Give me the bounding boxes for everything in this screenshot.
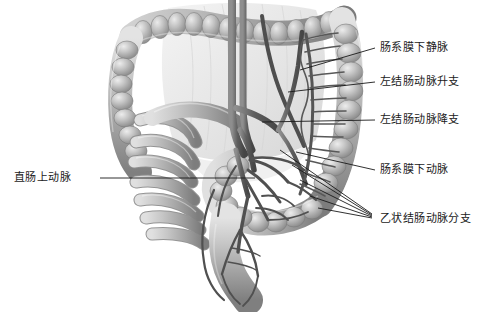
anatomy-figure: 肠系膜下静脉左结肠动脉升支左结肠动脉降支肠系膜下动脉乙状结肠动脉分支直肠上动脉: [0, 0, 484, 312]
label-lca-ascend: 左结肠动脉升支: [380, 76, 460, 88]
label-lca-descend: 左结肠动脉降支: [380, 114, 460, 126]
label-ima: 肠系膜下动脉: [380, 164, 448, 176]
label-imv: 肠系膜下静脉: [380, 42, 448, 54]
label-sigmoid: 乙状结肠动脉分支: [380, 213, 471, 225]
ascending-colon: [110, 38, 147, 172]
small-intestine: [134, 113, 204, 244]
label-sra: 直肠上动脉: [14, 172, 71, 184]
